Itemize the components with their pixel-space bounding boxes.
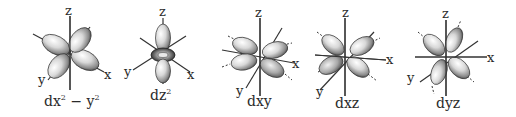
lobe bbox=[428, 57, 451, 87]
lobe bbox=[230, 52, 258, 72]
orbital-dxy: z x y dxy bbox=[222, 5, 300, 109]
orbital-label-dx2-y2: dx2 − y2 bbox=[44, 93, 100, 109]
x-axis-label: x bbox=[487, 50, 495, 65]
x-axis-label: x bbox=[187, 67, 195, 82]
z-axis-label: z bbox=[65, 3, 72, 18]
x-axis-label: x bbox=[104, 67, 112, 82]
orbital-label-dyz: dyz bbox=[436, 95, 460, 111]
y-axis-label: y bbox=[235, 83, 244, 98]
orbital-label-dxz: dxz bbox=[335, 95, 359, 111]
lobe bbox=[347, 33, 378, 60]
orbital-dyz: z x y dyz bbox=[406, 6, 495, 111]
y-axis-label: y bbox=[123, 64, 132, 79]
x-axis-label: x bbox=[386, 52, 394, 67]
orbital-label-dz2: dz2 bbox=[150, 87, 171, 103]
orbital-label-dxy: dxy bbox=[247, 93, 272, 109]
lobe bbox=[156, 59, 171, 83]
y-axis-label: y bbox=[406, 70, 415, 85]
x-axis-label: x bbox=[292, 56, 300, 71]
lobe bbox=[419, 30, 449, 60]
z-axis-label: z bbox=[342, 5, 349, 20]
y-axis-label: y bbox=[37, 72, 46, 87]
z-axis-label: z bbox=[442, 6, 449, 21]
d-orbitals-diagram: z x y dx2 − y2 z x y dz2 z bbox=[0, 0, 516, 117]
orbital-dz2: z x y dz2 bbox=[123, 4, 195, 103]
lobe bbox=[442, 25, 467, 55]
lobe bbox=[444, 53, 474, 83]
z-axis-label: z bbox=[255, 5, 262, 20]
orbital-dxz: z x y dxz bbox=[315, 5, 394, 111]
y-axis-label: y bbox=[315, 84, 324, 99]
z-axis-label: z bbox=[159, 4, 166, 19]
orbital-dx2-y2: z x y dx2 − y2 bbox=[33, 3, 112, 109]
